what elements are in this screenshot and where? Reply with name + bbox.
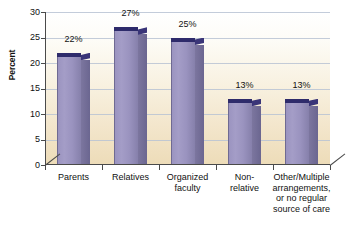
- y-axis-line: [45, 12, 46, 165]
- bar[interactable]: [228, 99, 252, 165]
- bar-front-face: [228, 99, 252, 165]
- bar-front-face: [57, 53, 81, 165]
- x-axis-tick-mark: [45, 165, 46, 170]
- bar-side-face: [138, 34, 147, 165]
- bar-front-face: [114, 27, 138, 165]
- bar[interactable]: [171, 38, 195, 166]
- bar-side-face: [309, 106, 318, 165]
- x-axis-tick-mark: [273, 165, 274, 170]
- bar-value-label: 25%: [163, 19, 212, 29]
- bar-front-face: [171, 38, 195, 166]
- y-axis-tick-label: 0: [20, 161, 40, 170]
- x-axis-tick-mark: [330, 165, 331, 170]
- x-axis-tick-mark: [102, 165, 103, 170]
- y-axis-tick-label: 5: [20, 135, 40, 144]
- bar-top-face: [285, 99, 309, 103]
- bar-top-face: [228, 99, 252, 103]
- bar-front-face: [285, 99, 309, 165]
- bar-side-face: [252, 106, 261, 165]
- bar-top-face: [57, 53, 81, 57]
- y-axis-tick-label: 20: [20, 59, 40, 68]
- bar-value-label: 22%: [49, 34, 98, 44]
- gridline: [45, 12, 330, 13]
- y-axis-tick-label: 30: [20, 8, 40, 17]
- bar[interactable]: [57, 53, 81, 165]
- x-axis-tick-mark: [159, 165, 160, 170]
- bar-value-label: 27%: [106, 8, 155, 18]
- bar-side-face: [195, 45, 204, 166]
- x-axis-tick-mark: [216, 165, 217, 170]
- bar[interactable]: [114, 27, 138, 165]
- bar-side-face: [81, 60, 90, 165]
- floor-edge-right: [330, 153, 346, 166]
- x-axis-line: [45, 164, 330, 165]
- y-axis-tick-label: 10: [20, 110, 40, 119]
- bar-value-label: 13%: [277, 80, 326, 90]
- y-axis-title: Percent: [7, 35, 17, 95]
- bar[interactable]: [285, 99, 309, 165]
- y-axis-tick-label: 15: [20, 84, 40, 93]
- bar-top-face: [114, 27, 138, 31]
- bar-top-face: [171, 38, 195, 42]
- bar-value-label: 13%: [220, 80, 269, 90]
- x-axis-category-label: Other/Multiple arrangements, or no regul…: [265, 172, 338, 214]
- y-axis-tick-label: 25: [20, 33, 40, 42]
